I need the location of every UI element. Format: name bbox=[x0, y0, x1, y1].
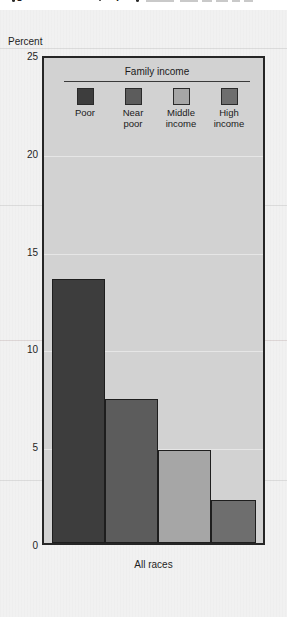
plot-inner: Family income Poor bbox=[44, 58, 263, 543]
legend-label-high-income: High income bbox=[206, 108, 252, 129]
legend-swatch-high-income bbox=[221, 88, 238, 105]
legend: Family income Poor bbox=[62, 66, 252, 129]
legend-title: Family income bbox=[62, 66, 252, 78]
bar-poor bbox=[52, 279, 105, 543]
legend-label-near-poor-line1: Near bbox=[110, 108, 156, 119]
y-axis-title: Percent bbox=[8, 36, 42, 47]
bar-near-poor bbox=[105, 399, 158, 543]
y-tick-label-0: 0 bbox=[0, 540, 38, 551]
legend-item-near-poor: Near poor bbox=[110, 88, 156, 129]
legend-divider bbox=[64, 81, 250, 82]
y-tick-label-25: 25 bbox=[0, 51, 38, 62]
legend-item-middle-income: Middle income bbox=[158, 88, 204, 129]
x-axis-category-label: All races bbox=[42, 559, 265, 570]
legend-item-high-income: High income bbox=[206, 88, 252, 129]
bar-middle-income bbox=[158, 450, 211, 543]
legend-swatch-near-poor bbox=[125, 88, 142, 105]
legend-label-poor: Poor bbox=[62, 108, 108, 119]
legend-label-middle-income-line2: income bbox=[158, 119, 204, 130]
plot-area: Family income Poor bbox=[42, 56, 265, 545]
y-tick-label-10: 10 bbox=[0, 344, 38, 355]
legend-item-poor: Poor bbox=[62, 88, 108, 119]
legend-items: Poor Near poor bbox=[62, 88, 252, 129]
bar-high-income bbox=[211, 500, 256, 543]
scanned-sheet: Percent 25 20 15 10 5 0 Family bbox=[0, 10, 287, 617]
legend-swatch-middle-income bbox=[173, 88, 190, 105]
legend-label-high-income-line2: income bbox=[206, 119, 252, 130]
cropped-title-strip: Figure 3. Percent of people without a us… bbox=[0, 0, 287, 10]
legend-label-high-income-line1: High bbox=[206, 108, 252, 119]
legend-swatch-poor bbox=[77, 88, 94, 105]
legend-label-near-poor: Near poor bbox=[110, 108, 156, 129]
figure-page: Figure 3. Percent of people without a us… bbox=[0, 0, 287, 617]
legend-label-poor-line1: Poor bbox=[62, 108, 108, 119]
y-tick-label-5: 5 bbox=[0, 442, 38, 453]
y-tick-label-20: 20 bbox=[0, 148, 38, 159]
legend-label-middle-income-line1: Middle bbox=[158, 108, 204, 119]
gridline-15 bbox=[44, 254, 263, 255]
gridline-20 bbox=[44, 156, 263, 157]
title-ink-remnants bbox=[6, 0, 281, 3]
y-tick-label-15: 15 bbox=[0, 246, 38, 257]
legend-label-middle-income: Middle income bbox=[158, 108, 204, 129]
legend-label-near-poor-line2: poor bbox=[110, 119, 156, 130]
